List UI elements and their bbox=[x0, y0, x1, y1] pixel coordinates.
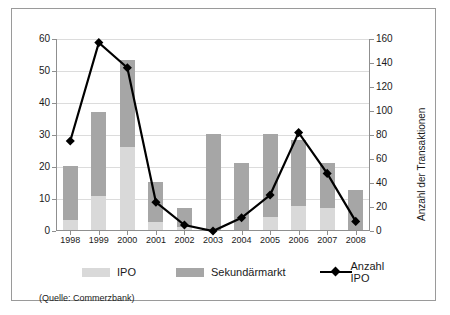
y-tick-label-left-10: 10 bbox=[16, 194, 50, 204]
y-tick-label-right-120: 120 bbox=[376, 82, 410, 92]
x-tick-label-2000: 2000 bbox=[111, 235, 143, 245]
x-tick-label-2008: 2008 bbox=[340, 235, 372, 245]
chart-legend: IPO Sekundärmarkt Anzahl IPO bbox=[56, 264, 386, 280]
chart-page: 60 50 40 30 20 10 0 160 140 120 100 80 6… bbox=[0, 0, 450, 315]
x-tick-label-2003: 2003 bbox=[197, 235, 229, 245]
legend-item-anzahl-ipo: Anzahl IPO bbox=[320, 260, 393, 284]
y-tick-left-0 bbox=[52, 231, 56, 232]
y-tick-label-left-40: 40 bbox=[16, 98, 50, 108]
y-tick-right-80 bbox=[370, 135, 374, 136]
x-tick-label-2001: 2001 bbox=[140, 235, 172, 245]
y-tick-label-right-40: 40 bbox=[376, 178, 410, 188]
line-series-anzahl-ipo bbox=[56, 39, 370, 231]
y-axis-right-title: Anzahl der Transaktionen bbox=[416, 69, 430, 259]
sekundaermarkt-swatch-icon bbox=[176, 268, 204, 277]
line-marker-2008 bbox=[351, 217, 360, 226]
y-tick-label-left-60: 60 bbox=[16, 34, 50, 44]
x-tick-label-1998: 1998 bbox=[54, 235, 86, 245]
x-tick-label-1999: 1999 bbox=[83, 235, 115, 245]
y-tick-right-60 bbox=[370, 159, 374, 160]
y-tick-label-left-50: 50 bbox=[16, 66, 50, 76]
y-tick-label-right-0: 0 bbox=[376, 226, 410, 236]
y-tick-right-160 bbox=[370, 39, 374, 40]
x-tick-label-2006: 2006 bbox=[283, 235, 315, 245]
line-marker-1998 bbox=[66, 136, 75, 145]
y-tick-right-100 bbox=[370, 111, 374, 112]
y-tick-right-140 bbox=[370, 63, 374, 64]
ipo-swatch-icon bbox=[82, 268, 110, 277]
y-tick-label-left-0: 0 bbox=[16, 226, 50, 236]
y-tick-right-120 bbox=[370, 87, 374, 88]
y-tick-right-0 bbox=[370, 231, 374, 232]
x-tick-label-2005: 2005 bbox=[254, 235, 286, 245]
legend-label-anzahl-ipo: Anzahl IPO bbox=[351, 260, 393, 284]
x-tick-label-2002: 2002 bbox=[168, 235, 200, 245]
source-note: (Quelle: Commerzbank) bbox=[39, 293, 135, 303]
y-tick-label-right-140: 140 bbox=[376, 58, 410, 68]
y-tick-label-right-100: 100 bbox=[376, 106, 410, 116]
y-tick-label-right-60: 60 bbox=[376, 154, 410, 164]
legend-item-ipo: IPO bbox=[82, 266, 136, 278]
x-tick-label-2004: 2004 bbox=[226, 235, 258, 245]
y-tick-right-40 bbox=[370, 183, 374, 184]
chart-frame: 60 50 40 30 20 10 0 160 140 120 100 80 6… bbox=[11, 8, 436, 301]
y-tick-label-right-160: 160 bbox=[376, 34, 410, 44]
y-tick-label-right-80: 80 bbox=[376, 130, 410, 140]
legend-label-sekundaermarkt: Sekundärmarkt bbox=[211, 266, 286, 278]
legend-label-ipo: IPO bbox=[117, 266, 136, 278]
legend-item-sekundaermarkt: Sekundärmarkt bbox=[176, 266, 286, 278]
y-tick-label-right-20: 20 bbox=[376, 202, 410, 212]
y-tick-label-left-20: 20 bbox=[16, 162, 50, 172]
y-tick-label-left-30: 30 bbox=[16, 130, 50, 140]
x-tick-label-2007: 2007 bbox=[311, 235, 343, 245]
line-marker-swatch-icon bbox=[320, 267, 344, 277]
plot-area: 60 50 40 30 20 10 0 160 140 120 100 80 6… bbox=[56, 39, 370, 231]
y-tick-right-20 bbox=[370, 207, 374, 208]
